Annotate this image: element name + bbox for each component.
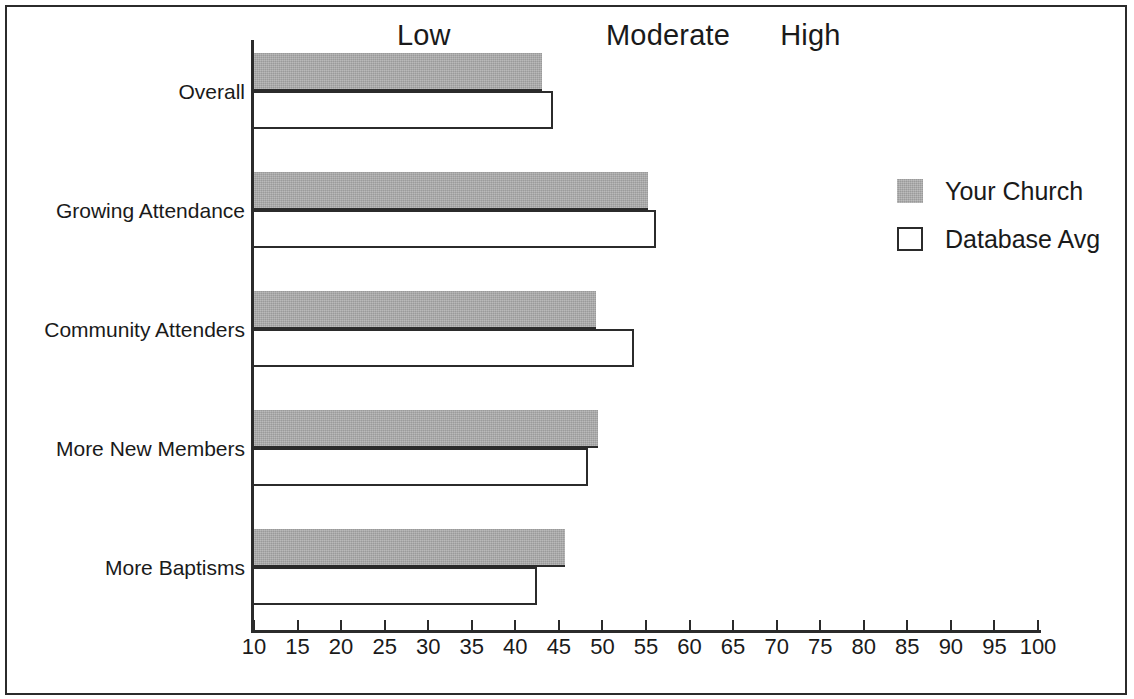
bar-your-church-overall bbox=[254, 53, 542, 91]
bar-database-avg-more-baptisms bbox=[254, 567, 537, 605]
legend-label: Database Avg bbox=[945, 227, 1100, 252]
axis-tick-label: 15 bbox=[285, 636, 309, 658]
axis-tick-label: 100 bbox=[1020, 636, 1057, 658]
bar-your-church-more-baptisms bbox=[254, 529, 565, 567]
zone-label-moderate: Moderate bbox=[606, 21, 730, 50]
legend-item-your-church: Your Church bbox=[897, 167, 1100, 215]
axis-tick bbox=[340, 620, 342, 633]
category-label-text: Community Attenders bbox=[44, 319, 245, 340]
category-label-text: More New Members bbox=[56, 438, 245, 459]
axis-tick-label: 90 bbox=[939, 636, 963, 658]
axis-tick bbox=[297, 620, 299, 633]
axis-tick-label: 95 bbox=[982, 636, 1006, 658]
axis-tick bbox=[514, 620, 516, 633]
axis-tick bbox=[863, 620, 865, 633]
bar-database-avg-overall bbox=[254, 91, 553, 129]
axis-tick bbox=[906, 620, 908, 633]
bar-database-avg-more-new-members bbox=[254, 448, 588, 486]
axis-tick bbox=[732, 620, 734, 633]
axis-tick-label: 55 bbox=[634, 636, 658, 658]
bar-your-church-community-attenders bbox=[254, 291, 596, 329]
bar-database-avg-community-attenders bbox=[254, 329, 634, 367]
legend-swatch-filled-square-icon bbox=[897, 179, 923, 203]
axis-tick bbox=[253, 620, 255, 633]
category-label-text: Overall bbox=[178, 81, 245, 102]
axis-tick bbox=[427, 620, 429, 633]
axis-tick-label: 35 bbox=[460, 636, 484, 658]
category-label-text: More Baptisms bbox=[105, 557, 245, 578]
chart-frame: Low Moderate High Overall Growing Attend… bbox=[5, 5, 1127, 695]
axis-tick bbox=[645, 620, 647, 633]
category-label-text: Growing Attendance bbox=[56, 200, 245, 221]
axis-tick bbox=[1037, 620, 1039, 633]
axis-tick-label: 65 bbox=[721, 636, 745, 658]
bar-your-church-more-new-members bbox=[254, 410, 598, 448]
axis-tick bbox=[601, 620, 603, 633]
axis-tick bbox=[776, 620, 778, 633]
axis-tick-label: 60 bbox=[677, 636, 701, 658]
bar-database-avg-growing-attendance bbox=[254, 210, 656, 248]
zone-label-low: Low bbox=[397, 21, 451, 50]
axis-tick-label: 70 bbox=[764, 636, 788, 658]
axis-tick-label: 25 bbox=[372, 636, 396, 658]
legend-label: Your Church bbox=[945, 179, 1083, 204]
axis-tick-label: 40 bbox=[503, 636, 527, 658]
axis-tick-label: 50 bbox=[590, 636, 614, 658]
axis-tick bbox=[993, 620, 995, 633]
axis-tick-label: 30 bbox=[416, 636, 440, 658]
axis-tick-label: 80 bbox=[852, 636, 876, 658]
legend-swatch-open-square-icon bbox=[897, 227, 923, 251]
axis-tick-label: 10 bbox=[242, 636, 266, 658]
axis-tick bbox=[471, 620, 473, 633]
axis-tick bbox=[950, 620, 952, 633]
legend: Your Church Database Avg bbox=[897, 167, 1100, 263]
zone-label-high: High bbox=[780, 21, 840, 50]
axis-tick bbox=[819, 620, 821, 633]
axis-tick bbox=[384, 620, 386, 633]
axis-tick-label: 45 bbox=[547, 636, 571, 658]
axis-tick-label: 20 bbox=[329, 636, 353, 658]
axis-tick-label: 85 bbox=[895, 636, 919, 658]
bar-your-church-growing-attendance bbox=[254, 172, 648, 210]
axis-tick-label: 75 bbox=[808, 636, 832, 658]
axis-tick bbox=[558, 620, 560, 633]
plot-area: Low Moderate High Overall Growing Attend… bbox=[7, 7, 1125, 693]
axis-tick bbox=[689, 620, 691, 633]
legend-item-database-avg: Database Avg bbox=[897, 215, 1100, 263]
